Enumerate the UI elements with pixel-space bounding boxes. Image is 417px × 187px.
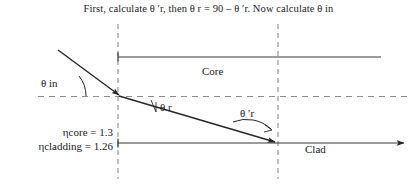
diagram-canvas: [0, 0, 417, 187]
clad-region-label: Clad: [305, 143, 326, 156]
theta-prime-r-label: θ ′r: [240, 107, 254, 120]
theta-prime-r-arc: [233, 119, 271, 129]
theta-in-arc: [79, 76, 86, 96]
incident-ray: [58, 50, 119, 95]
theta-in-label: θ in: [41, 77, 58, 90]
theta-r-label: θ r: [160, 101, 172, 114]
core-region-label: Core: [202, 65, 223, 78]
ray-diagram-figure: First, calculate θ ′r, then θ r = 90 – θ…: [0, 0, 417, 187]
refractive-index-cladding-label: ηcladding = 1.26: [4, 140, 113, 153]
refractive-index-core-label: ηcore = 1.3: [10, 126, 113, 139]
